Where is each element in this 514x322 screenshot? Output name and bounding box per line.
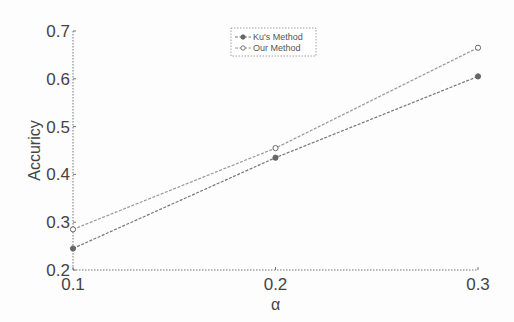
legend: Ku's MethodOur Method bbox=[231, 28, 316, 56]
data-point-marker bbox=[273, 146, 278, 151]
y-tick-label: 0.5 bbox=[46, 118, 70, 137]
data-point-marker bbox=[475, 45, 480, 50]
x-axis-label: α bbox=[271, 296, 280, 313]
data-point-marker bbox=[70, 246, 75, 251]
y-axis-label: Accuricy bbox=[26, 120, 43, 180]
axes: 0.20.30.40.50.60.70.10.20.3αAccuricy bbox=[26, 22, 490, 313]
series-line-1 bbox=[73, 48, 478, 230]
legend-label-0: Ku's Method bbox=[253, 32, 303, 42]
y-tick-label: 0.6 bbox=[46, 70, 70, 89]
data-point-marker bbox=[70, 227, 75, 232]
x-tick-label: 0.1 bbox=[61, 275, 85, 294]
data-point-marker bbox=[273, 155, 278, 160]
y-tick-label: 0.7 bbox=[46, 22, 70, 41]
x-tick-label: 0.2 bbox=[264, 275, 288, 294]
y-tick-label: 0.4 bbox=[46, 165, 70, 184]
line-chart: 0.20.30.40.50.60.70.10.20.3αAccuricy Ku'… bbox=[0, 0, 514, 322]
series-layer bbox=[70, 45, 480, 251]
data-point-marker bbox=[475, 74, 480, 79]
x-tick-label: 0.3 bbox=[466, 275, 490, 294]
legend-label-1: Our Method bbox=[253, 43, 301, 53]
series-line-0 bbox=[73, 76, 478, 248]
legend-marker-icon bbox=[241, 35, 245, 39]
legend-marker-icon bbox=[241, 46, 245, 50]
y-tick-label: 0.3 bbox=[46, 213, 70, 232]
